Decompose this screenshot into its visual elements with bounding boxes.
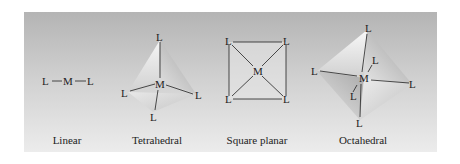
ligand-label: L [42, 75, 49, 87]
linear-structure: L M L [42, 75, 94, 87]
ligand-label: L [365, 22, 372, 34]
ligand-label: L [225, 35, 232, 47]
metal-label: M [253, 65, 263, 77]
ligand-label: L [283, 35, 290, 47]
ligand-label: L [156, 31, 163, 43]
ligand-label: L [350, 90, 357, 102]
tetrahedral-structure: L M L L L [121, 31, 202, 123]
ligand-label: L [409, 78, 416, 90]
metal-label: M [359, 72, 369, 84]
metal-label: M [155, 78, 165, 90]
ligand-label: L [87, 75, 94, 87]
ligand-label: L [121, 87, 128, 99]
octahedral-structure: L L L M L L L [311, 22, 416, 129]
ligand-label: L [225, 93, 232, 105]
ligand-label: L [150, 111, 157, 123]
ligand-label: L [311, 65, 318, 77]
caption-square-planar: Square planar [227, 134, 288, 146]
ligand-label: L [283, 93, 290, 105]
caption-octahedral: Octahedral [339, 134, 387, 146]
ligand-label: L [372, 54, 379, 66]
metal-label: M [63, 75, 73, 87]
ligand-label: L [356, 117, 363, 129]
square-planar-structure: L L M L L [225, 35, 290, 105]
caption-tetrahedral: Tetrahedral [132, 134, 182, 146]
caption-linear: Linear [53, 134, 82, 146]
ligand-label: L [195, 89, 202, 101]
